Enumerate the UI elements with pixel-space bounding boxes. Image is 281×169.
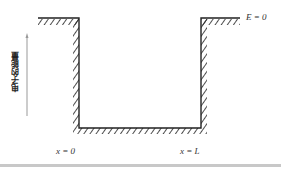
bottom-hatch xyxy=(73,128,207,134)
right-wall-hatch xyxy=(201,19,207,128)
well-drawing xyxy=(0,0,281,169)
left-top-hatch xyxy=(38,19,79,25)
left-boundary-label: x = 0 xyxy=(56,146,75,156)
y-axis-label: 电子的能量 xyxy=(10,52,21,92)
energy-zero-label: E = 0 xyxy=(246,12,267,22)
left-wall-hatch xyxy=(73,19,79,128)
right-boundary-label: x = L xyxy=(180,146,200,156)
well-outline xyxy=(38,18,240,128)
right-top-hatch xyxy=(201,19,240,25)
bottom-divider xyxy=(0,164,281,167)
energy-axis-arrowhead-icon xyxy=(26,33,29,38)
